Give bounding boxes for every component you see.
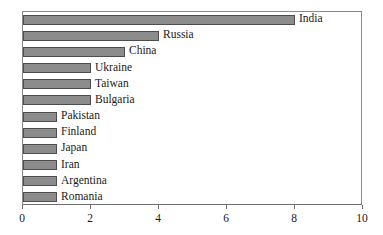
bar-row: Finland <box>23 125 361 141</box>
x-tick-mark <box>226 205 227 209</box>
bar-iran[interactable] <box>23 160 57 170</box>
bar-pakistan[interactable] <box>23 112 57 122</box>
bar-romania[interactable] <box>23 192 57 202</box>
bar-row: Ukraine <box>23 61 361 77</box>
x-tick-label: 2 <box>87 211 93 225</box>
bar-row: Bulgaria <box>23 93 361 109</box>
bar-label-pakistan: Pakistan <box>61 108 100 123</box>
bar-argentina[interactable] <box>23 176 57 186</box>
x-axis: 0246810 <box>22 205 362 235</box>
bar-row: India <box>23 12 361 28</box>
bar-ukraine[interactable] <box>23 63 91 73</box>
x-tick-label: 6 <box>223 211 229 225</box>
x-tick-mark <box>90 205 91 209</box>
bar-label-finland: Finland <box>61 124 96 139</box>
bar-label-iran: Iran <box>61 157 80 172</box>
bar-taiwan[interactable] <box>23 79 91 89</box>
x-tick-mark <box>22 205 23 209</box>
bar-row: Argentina <box>23 174 361 190</box>
bars-layer: IndiaRussiaChinaUkraineTaiwanBulgariaPak… <box>23 12 361 204</box>
bar-label-russia: Russia <box>163 27 194 42</box>
bar-row: Russia <box>23 28 361 44</box>
bar-bulgaria[interactable] <box>23 95 91 105</box>
bar-row: Pakistan <box>23 109 361 125</box>
bar-row: Romania <box>23 190 361 206</box>
bar-russia[interactable] <box>23 31 159 41</box>
x-tick-label: 4 <box>155 211 161 225</box>
x-tick-mark <box>294 205 295 209</box>
bar-japan[interactable] <box>23 144 57 154</box>
bar-label-romania: Romania <box>61 189 103 204</box>
x-tick-label: 8 <box>291 211 297 225</box>
x-tick-label: 10 <box>356 211 368 225</box>
bar-row: Taiwan <box>23 77 361 93</box>
x-tick-mark <box>158 205 159 209</box>
bar-label-bulgaria: Bulgaria <box>95 92 135 107</box>
bar-label-ukraine: Ukraine <box>95 60 132 75</box>
bar-label-argentina: Argentina <box>61 173 107 188</box>
x-tick-label: 0 <box>19 211 25 225</box>
bar-row: Iran <box>23 158 361 174</box>
bar-label-india: India <box>299 11 323 26</box>
bar-finland[interactable] <box>23 128 57 138</box>
bar-india[interactable] <box>23 15 295 25</box>
bar-label-taiwan: Taiwan <box>95 76 129 91</box>
bar-china[interactable] <box>23 47 125 57</box>
x-tick-mark <box>362 205 363 209</box>
bar-label-japan: Japan <box>61 140 87 155</box>
bar-chart: IndiaRussiaChinaUkraineTaiwanBulgariaPak… <box>0 0 383 235</box>
bar-row: China <box>23 44 361 60</box>
plot-area: IndiaRussiaChinaUkraineTaiwanBulgariaPak… <box>22 11 362 205</box>
bar-label-china: China <box>129 43 156 58</box>
bar-row: Japan <box>23 141 361 157</box>
